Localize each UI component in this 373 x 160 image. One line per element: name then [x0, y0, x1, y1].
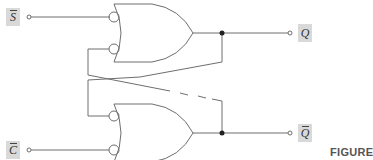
overbar [10, 10, 17, 11]
q-junction [220, 31, 225, 36]
qbar-junction [220, 131, 225, 136]
q-output-terminal [288, 31, 292, 35]
qbar-output-terminal [288, 131, 292, 135]
c-input-terminal [27, 148, 31, 152]
lower-or-gate [114, 104, 193, 160]
input-label-c: C [6, 141, 20, 159]
overbar [302, 126, 309, 127]
s-input-terminal [27, 15, 31, 19]
overbar [10, 143, 17, 144]
upper-or-gate [114, 4, 193, 62]
output-label-q: Q [298, 24, 312, 42]
figure-caption: FIGURE [330, 146, 373, 158]
output-label-qbar: Q [298, 124, 312, 142]
input-label-s: S [6, 8, 20, 26]
